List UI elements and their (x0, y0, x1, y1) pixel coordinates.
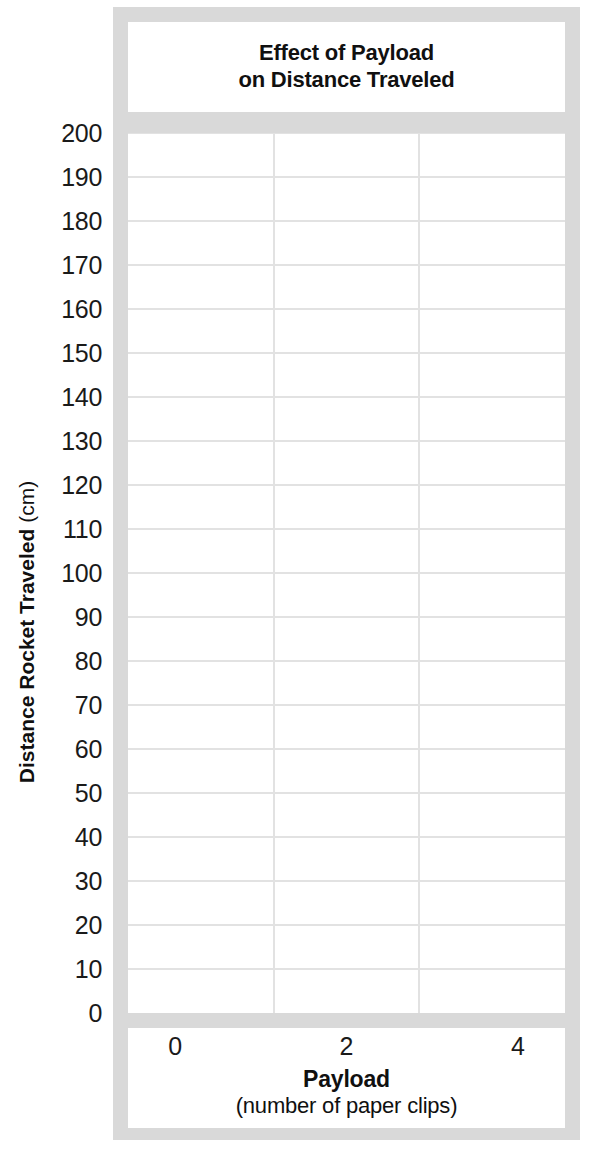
horizontal-gridline (128, 352, 565, 354)
horizontal-gridline (128, 924, 565, 926)
y-axis-tick-label: 110 (63, 515, 102, 544)
horizontal-gridline (128, 396, 565, 398)
y-axis-tick-label: 100 (61, 559, 102, 588)
horizontal-gridline (128, 484, 565, 486)
y-axis-tick-label: 30 (75, 867, 102, 896)
y-axis-tick-label: 40 (75, 823, 102, 852)
horizontal-gridline (128, 704, 565, 706)
horizontal-gridline (128, 528, 565, 530)
y-axis-tick-label: 70 (75, 691, 102, 720)
page-title: Effect of Payload on Distance Traveled (238, 40, 454, 94)
x-axis-panel: Payload (number of paper clips) 024 (128, 1028, 565, 1128)
horizontal-gridline (128, 220, 565, 222)
plot-area (128, 133, 565, 1013)
horizontal-gridline (128, 133, 565, 134)
horizontal-gridline (128, 440, 565, 442)
y-axis-tick-label: 50 (75, 779, 102, 808)
vertical-gridline (273, 133, 275, 1013)
y-axis-title: Distance Rocket Traveled (cm) (15, 217, 39, 1047)
horizontal-gridline (128, 836, 565, 838)
horizontal-gridline (128, 176, 565, 178)
y-axis-tick-label: 130 (61, 427, 102, 456)
x-axis-tick-label: 0 (168, 1032, 182, 1061)
chart-title-line-1: Effect of Payload (259, 40, 434, 65)
y-axis-tick-label: 200 (61, 119, 102, 148)
x-axis-title: Payload (number of paper clips) (128, 1066, 565, 1118)
chart-title-panel: Effect of Payload on Distance Traveled (128, 22, 565, 112)
x-axis-title-text: Payload (128, 1066, 565, 1093)
y-axis-tick-label: 140 (61, 383, 102, 412)
y-axis-tick-label: 190 (61, 163, 102, 192)
y-axis-tick-label: 0 (88, 999, 102, 1028)
y-axis-tick-label: 20 (75, 911, 102, 940)
horizontal-gridline (128, 660, 565, 662)
y-axis-tick-label: 10 (75, 955, 102, 984)
y-axis-tick-label: 60 (75, 735, 102, 764)
horizontal-gridline (128, 748, 565, 750)
y-axis-tick-label: 180 (61, 207, 102, 236)
y-axis-tick-label: 170 (61, 251, 102, 280)
horizontal-gridline (128, 880, 565, 882)
y-axis-tick-label: 150 (61, 339, 102, 368)
y-axis-title-text: Distance Rocket Traveled (15, 529, 38, 783)
x-axis-tick-label: 2 (340, 1032, 354, 1061)
chart-title-line-2: on Distance Traveled (238, 67, 454, 92)
y-axis-tick-label: 120 (61, 471, 102, 500)
horizontal-gridline (128, 264, 565, 266)
x-axis-tick-label: 4 (511, 1032, 525, 1061)
horizontal-gridline (128, 308, 565, 310)
y-axis-tick-label: 90 (75, 603, 102, 632)
horizontal-gridline (128, 792, 565, 794)
horizontal-gridline (128, 968, 565, 970)
x-axis-title-unit: (number of paper clips) (128, 1093, 565, 1119)
y-axis-title-unit: (cm) (15, 481, 38, 523)
y-axis-tick-label: 80 (75, 647, 102, 676)
vertical-gridline (418, 133, 420, 1013)
y-axis-tick-label: 160 (61, 295, 102, 324)
horizontal-gridline (128, 616, 565, 618)
horizontal-gridline (128, 572, 565, 574)
